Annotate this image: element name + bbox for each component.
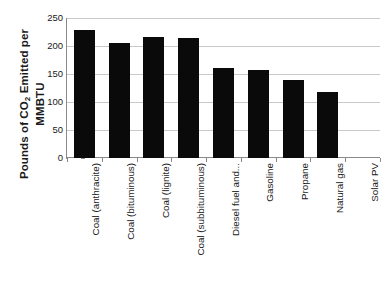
x-tick-mark	[102, 158, 103, 162]
x-tick-mark	[206, 158, 207, 162]
bar	[248, 70, 269, 158]
x-axis-labels: Coal (anthracite)Coal (bituminous)Coal (…	[67, 163, 380, 291]
bar	[283, 80, 304, 158]
gridline	[67, 18, 380, 19]
x-tick-mark	[345, 158, 346, 162]
y-axis-ticks: 050100150200250	[15, 18, 63, 158]
y-tick-label: 0	[21, 153, 63, 163]
y-tick-label: 50	[21, 125, 63, 135]
x-tick-label: Diesel fuel and...	[229, 163, 243, 287]
bar-chart: Pounds of CO2 Emitted per MMBTU 05010015…	[0, 0, 387, 293]
y-tick-label: 200	[21, 41, 63, 51]
x-tick-label: Coal (anthracite)	[89, 163, 103, 287]
x-tick-label: Coal (lignite)	[159, 163, 173, 287]
bar	[178, 38, 199, 158]
y-tick-label: 150	[21, 69, 63, 79]
x-tick-mark	[310, 158, 311, 162]
x-tick-mark	[380, 158, 381, 162]
bar	[109, 43, 130, 158]
bar	[143, 37, 164, 158]
bar	[213, 68, 234, 158]
y-tick-label: 100	[21, 97, 63, 107]
x-tick-label: Solar PV	[368, 163, 382, 287]
x-tick-mark	[67, 158, 68, 162]
x-tick-label: Propane	[298, 163, 312, 287]
x-tick-label: Natural gas	[333, 163, 347, 287]
x-tick-mark	[171, 158, 172, 162]
x-tick-label: Gasoline	[263, 163, 277, 287]
x-tick-mark	[241, 158, 242, 162]
x-tick-label: Coal (subbituminous)	[194, 163, 208, 287]
x-tick-mark	[137, 158, 138, 162]
y-tick-label: 250	[21, 13, 63, 23]
bar	[317, 92, 338, 158]
bar	[74, 30, 95, 158]
plot-area	[67, 18, 380, 158]
x-tick-label: Coal (bituminous)	[124, 163, 138, 287]
x-tick-mark	[276, 158, 277, 162]
